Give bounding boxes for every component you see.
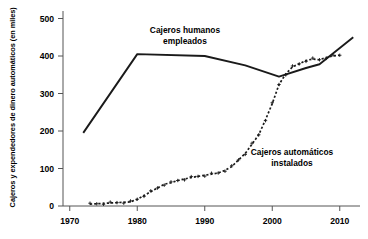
data-point-marker	[277, 83, 280, 86]
x-tick-label: 1980	[128, 216, 147, 226]
data-series-group	[83, 37, 353, 206]
y-tick-label: 0	[49, 201, 54, 211]
y-tick-label: 400	[40, 51, 55, 61]
chart-container: Cajeros y expendedores de dinero automát…	[0, 0, 368, 239]
data-point-marker	[196, 175, 199, 178]
chart-annotations: Cajeros humanosempleadosCajeros automáti…	[150, 25, 334, 168]
data-point-marker	[115, 201, 118, 204]
annotation-line: instalados	[271, 158, 313, 168]
data-point-marker	[95, 202, 98, 205]
data-point-marker	[338, 54, 341, 57]
y-tick-label: 300	[40, 89, 55, 99]
series-line-1	[83, 37, 353, 133]
y-tick-group: 0100200300400500	[40, 14, 63, 212]
annotation-line: empleados	[163, 36, 207, 46]
x-tick-label: 1990	[195, 216, 214, 226]
data-point-marker	[264, 119, 267, 122]
series-line-2	[90, 55, 340, 204]
annotation-line: Cajeros automáticos	[251, 147, 334, 157]
annotation-human-tellers: Cajeros humanosempleados	[150, 25, 221, 46]
data-point-marker	[318, 58, 321, 61]
y-tick-label: 500	[40, 14, 55, 24]
x-tick-group: 19701980199020002010	[60, 206, 349, 226]
annotation-atms: Cajeros automáticosinstalados	[251, 147, 334, 168]
x-tick-label: 2010	[330, 216, 349, 226]
chart-plot-area: 0100200300400500 19701980199020002010 Ca…	[0, 0, 368, 239]
y-tick-label: 200	[40, 126, 55, 136]
x-tick-label: 1970	[60, 216, 79, 226]
x-tick-label: 2000	[263, 216, 282, 226]
y-axis: 0100200300400500	[40, 11, 63, 211]
data-point-marker	[210, 172, 213, 175]
x-axis: 19701980199020002010	[60, 206, 360, 226]
annotation-line: Cajeros humanos	[150, 25, 221, 35]
data-point-marker	[176, 179, 179, 182]
y-tick-label: 100	[40, 164, 55, 174]
